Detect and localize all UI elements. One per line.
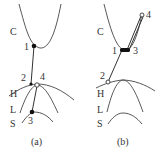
caption-a: (a): [31, 136, 42, 148]
label-3: 3: [28, 115, 33, 126]
point-4: [140, 13, 144, 17]
point-3: [30, 110, 35, 115]
point-1: [32, 44, 37, 49]
label-2: 2: [21, 72, 26, 83]
panel-b: C 1 3 4 2 H L S (b): [96, 4, 155, 148]
curve-l: [107, 80, 143, 112]
panel-a: C 1 2 4 H L S 3 (a): [9, 4, 74, 148]
point-1: [120, 48, 130, 52]
diagram: C 1 2 4 H L S 3 (a) C 1 3 4 2 H L S (b): [0, 0, 159, 152]
label-c: C: [97, 26, 104, 37]
curve-s: [22, 112, 53, 123]
point-2: [29, 82, 32, 85]
label-h: H: [97, 88, 104, 99]
label-s: S: [97, 118, 103, 129]
point-2: [106, 80, 110, 84]
label-1: 1: [112, 45, 117, 56]
label-h: H: [10, 88, 17, 99]
label-4: 4: [40, 71, 45, 82]
label-3: 3: [133, 45, 138, 56]
curve-s: [108, 113, 142, 124]
segment-4-3: [32, 86, 37, 112]
point-4: [35, 83, 39, 87]
label-4: 4: [146, 9, 151, 20]
curve-h: [96, 80, 155, 91]
label-2: 2: [100, 70, 105, 81]
label-s: S: [10, 118, 16, 129]
segment-1-2: [31, 46, 34, 84]
caption-b: (b): [117, 136, 129, 148]
curve-l: [20, 85, 58, 113]
label-c: C: [10, 26, 17, 37]
label-l: L: [97, 104, 103, 115]
label-1: 1: [24, 41, 29, 52]
label-l: L: [10, 104, 16, 115]
